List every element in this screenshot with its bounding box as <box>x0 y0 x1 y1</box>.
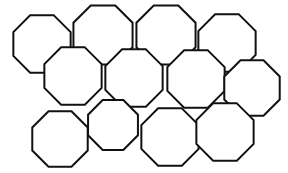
octagon-r3c4 <box>196 103 253 160</box>
octagon-r3c3 <box>141 108 198 165</box>
octagon-r2c3 <box>167 50 224 107</box>
octagon-group <box>13 5 279 166</box>
octagon-r3c2 <box>88 100 138 150</box>
figure-canvas <box>0 0 288 173</box>
octagon-r3c1 <box>32 111 87 166</box>
octagon-r2c2 <box>105 49 162 106</box>
octagon-tiling-figure <box>0 0 288 173</box>
octagon-r2c1 <box>44 47 101 104</box>
